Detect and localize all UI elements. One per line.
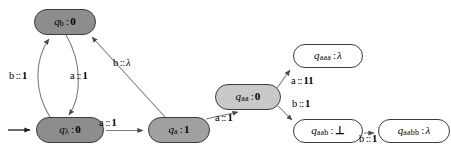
state-node-q-aabb[interactable]: qaabb:λ xyxy=(378,119,450,143)
state-node-q-aab[interactable]: qaab:⊥ xyxy=(293,119,363,143)
edge-label-lambda-to-b: b::1 xyxy=(9,71,27,82)
state-node-q-aa-label: qaa:0 xyxy=(236,90,261,102)
state-node-q-b-label: qb:0 xyxy=(54,15,76,27)
state-node-q-aab-label: qaab:⊥ xyxy=(311,124,345,136)
state-node-q-lambda-label: qλ:0 xyxy=(59,123,80,135)
automaton-diagram: qλ:0 qb:0 qa:1 qaa:0 qaaa:λ qaab:⊥ qaabb… xyxy=(0,0,451,153)
edge-label-aa-to-aaa: a::11 xyxy=(291,76,313,87)
edge-aa-to-aab xyxy=(278,106,292,120)
edge-a-to-b xyxy=(92,37,165,117)
edge-label-a-to-aa: a::1 xyxy=(215,113,233,124)
edge-label-a-to-b: b::λ xyxy=(113,58,131,69)
edge-label-aa-to-aab: b::1 xyxy=(292,99,310,110)
state-node-q-a[interactable]: qa:1 xyxy=(148,117,210,143)
edge-aa-to-aaa xyxy=(277,70,290,88)
state-node-q-aabb-label: qaabb:λ xyxy=(398,124,431,136)
edge-lambda-to-b xyxy=(38,39,50,117)
state-node-q-a-label: qa:1 xyxy=(168,123,189,135)
state-node-q-lambda[interactable]: qλ:0 xyxy=(36,117,104,143)
state-node-q-aaa-label: qaaa:λ xyxy=(314,49,342,61)
state-node-q-aa[interactable]: qaa:0 xyxy=(215,84,281,110)
edge-label-b-to-lambda: a::1 xyxy=(70,71,88,82)
edge-label-lambda-to-a: a::1 xyxy=(99,118,117,129)
state-node-q-aaa[interactable]: qaaa:λ xyxy=(293,44,363,68)
state-node-q-b[interactable]: qb:0 xyxy=(34,9,96,35)
edge-label-aab-to-aabb: b::1 xyxy=(359,134,377,145)
